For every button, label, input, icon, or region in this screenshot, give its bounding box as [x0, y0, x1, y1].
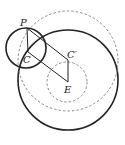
label-C: C	[23, 54, 31, 65]
label-C-prime: C′	[67, 49, 78, 60]
segment-P-C	[27, 28, 28, 52]
small-dashed-circle	[47, 62, 87, 102]
label-P: P	[19, 17, 27, 28]
geometry-diagram: P C C′ E	[0, 0, 125, 145]
label-E: E	[63, 84, 72, 95]
